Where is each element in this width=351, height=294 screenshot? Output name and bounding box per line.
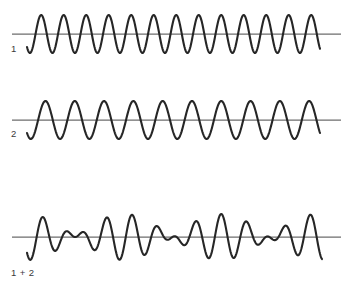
wave-2-label: 2 <box>11 129 17 139</box>
wave-sum-label: 1 + 2 <box>11 268 34 278</box>
wave-1-label: 1 <box>11 44 17 54</box>
wave-canvas <box>0 0 351 294</box>
wave-superposition-figure: 1 2 1 + 2 <box>0 0 351 294</box>
